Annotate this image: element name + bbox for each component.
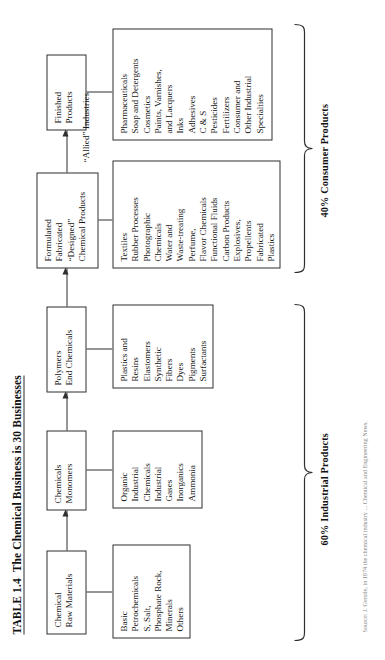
connector-raw-materials xyxy=(86,591,112,592)
summary-consumer-products: 40% Consumer Products xyxy=(318,103,329,217)
stage-line: Monomers xyxy=(63,437,74,503)
product-list-raw-materials[interactable]: Basic Petrochemicals S, Salt, Phosphate … xyxy=(112,544,190,638)
product-list-formulated[interactable]: Textiles Rubber Processes Photographic C… xyxy=(112,160,280,268)
stage-line: Chemical Products xyxy=(76,179,87,261)
list-item: Petrochemicals xyxy=(129,551,140,631)
stage-line: End Chemicals xyxy=(63,313,74,385)
list-item: Inks xyxy=(174,35,185,133)
list-item: Elastomers xyxy=(141,311,152,381)
list-item: Plastics and xyxy=(118,311,129,381)
list-item: Fertilizers xyxy=(220,35,231,133)
stage-box-polymers-end-chemicals[interactable]: Polymers End Chemicals xyxy=(46,306,86,392)
list-item: Pesticides xyxy=(208,35,219,133)
list-item: Rubber Processes xyxy=(129,167,140,261)
list-item: Phosphate Rock, xyxy=(152,551,163,631)
list-item: Inorganics xyxy=(174,437,185,501)
list-item: Perfume, xyxy=(186,167,197,261)
list-item: S, Salt, xyxy=(141,551,152,631)
arrow-chemicals-to-polymers xyxy=(66,392,67,430)
connector-chemicals xyxy=(86,469,112,470)
stage-box-formulated-fabricated[interactable]: Formulated Fabricated “Designed” Chemica… xyxy=(36,172,98,268)
arrow-polymers-to-formulated xyxy=(66,268,67,306)
arrow-head-icon xyxy=(62,267,68,274)
figure-title: TABLE 1.4The Chemical Business is 30 Bus… xyxy=(10,375,24,634)
list-item: Other Industrial xyxy=(242,35,253,133)
list-item: and Lacquers xyxy=(163,35,174,133)
stage-line: Products xyxy=(63,61,74,123)
list-item: Consumer and xyxy=(231,35,242,133)
list-item: Cosmetics xyxy=(141,35,152,133)
table-number: TABLE 1.4 xyxy=(10,578,22,634)
list-item: Specialties xyxy=(254,35,265,133)
arrow-formulated-to-finished xyxy=(66,130,67,172)
list-item: Flavor Chemicals xyxy=(197,167,208,261)
list-item: Textiles xyxy=(118,167,129,261)
list-item: C & S xyxy=(197,35,208,133)
allied-line-1: “Allied” xyxy=(80,131,90,162)
connector-polymers xyxy=(86,348,112,349)
stage-line: “Designed” xyxy=(65,179,76,261)
product-list-chemicals[interactable]: Organic Industrial Chemicals Industrial … xyxy=(112,430,202,508)
list-item: Adhesives xyxy=(186,35,197,133)
list-item: Propellents xyxy=(242,167,253,261)
list-item: Soap and Detergents xyxy=(129,35,140,133)
list-item: Industrial xyxy=(129,437,140,501)
list-item: Paints, Varnishes, xyxy=(152,35,163,133)
allied-line-2: Industries xyxy=(80,92,90,128)
list-item: Water and xyxy=(163,167,174,261)
product-list-polymers[interactable]: Plastics and Resins Elastomers Synthetic… xyxy=(112,304,213,388)
stage-box-raw-materials[interactable]: Chemical Raw Materials xyxy=(46,550,86,634)
list-item: Photographic xyxy=(141,167,152,261)
table-title: The Chemical Business is 30 Businesses xyxy=(10,375,22,572)
list-item: Dyes xyxy=(174,311,185,381)
stage-line: Finished xyxy=(52,61,63,123)
summary-industrial-products: 60% Industrial Products xyxy=(318,432,329,545)
list-item: Carbon Products xyxy=(220,167,231,261)
list-item: Fibers xyxy=(163,311,174,381)
stage-line: Fabricated xyxy=(53,179,64,261)
list-item: Pigments xyxy=(186,311,197,381)
source-caption: Source: J. Gerstle, in 1974 the chemical… xyxy=(360,421,367,632)
bracket-industrial xyxy=(292,302,314,642)
arrow-head-icon xyxy=(62,391,68,398)
list-item: Chemicals xyxy=(152,167,163,261)
list-item: Basic xyxy=(118,551,129,631)
list-item: Gases xyxy=(163,437,174,501)
stage-line: Raw Materials xyxy=(63,557,74,627)
connector-formulated xyxy=(98,219,112,220)
list-item: Fabricated xyxy=(254,167,265,261)
stage-line: Polymers xyxy=(52,313,63,385)
list-item: Ammonia xyxy=(186,437,197,501)
list-item: Functional Fluids xyxy=(208,167,219,261)
product-list-finished[interactable]: Pharmaceuticals Soap and Detergents Cosm… xyxy=(112,28,272,140)
list-item: Organic xyxy=(118,437,129,501)
bracket-consumer xyxy=(292,22,314,274)
list-item: Industrial xyxy=(152,437,163,501)
figure-canvas: TABLE 1.4The Chemical Business is 30 Bus… xyxy=(0,0,385,660)
list-item: Synthetic xyxy=(152,311,163,381)
arrow-head-icon xyxy=(62,129,68,136)
stage-box-chemicals-monomers[interactable]: Chemicals Monomers xyxy=(46,430,86,510)
allied-industries-label: “Allied” Industries xyxy=(80,102,91,162)
arrow-head-icon xyxy=(62,509,68,516)
list-item: Pharmaceuticals xyxy=(118,35,129,133)
stage-line: Chemicals xyxy=(52,437,63,503)
stage-line: Chemical xyxy=(52,557,63,627)
list-item: Explosives, xyxy=(231,167,242,261)
list-item: Others xyxy=(174,551,185,631)
list-item: Waste-treating xyxy=(174,167,185,261)
stage-line: Formulated xyxy=(42,179,53,261)
list-item: Plastics xyxy=(265,167,276,261)
list-item: Chemicals xyxy=(141,437,152,501)
list-item: Minerals xyxy=(163,551,174,631)
list-item: Resins xyxy=(129,311,140,381)
list-item: Surfactants xyxy=(197,311,208,381)
arrow-raw-to-chemicals xyxy=(66,510,67,550)
